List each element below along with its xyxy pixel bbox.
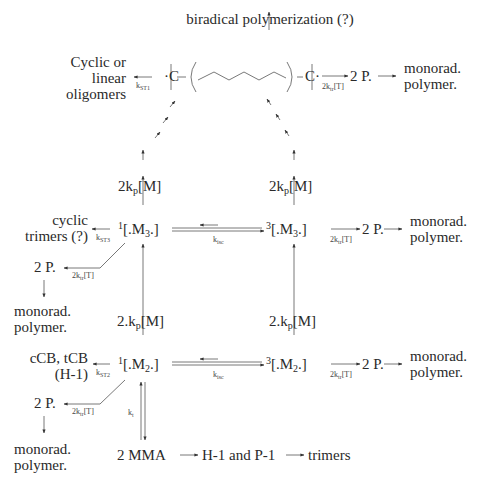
top-monorad-line-2: polymer. bbox=[404, 76, 457, 93]
trimer-left-monorad-line-2: polymer. bbox=[14, 319, 67, 336]
cyclic-trimers-line-2: trimers (?) bbox=[8, 228, 88, 245]
dimer-right-2p-product: 2 P. bbox=[362, 356, 384, 373]
k-st2-label: kST2 bbox=[96, 368, 110, 377]
top-transfer-rate-label: 2ktr[T] bbox=[322, 82, 344, 91]
reaction-scheme: biradical polymerization (?) Cyclic or l… bbox=[0, 0, 495, 487]
trimer-left-transfer-rate: 2ktr[T] bbox=[72, 271, 94, 280]
biradical-polymerization-label: biradical polymerization (?) bbox=[170, 11, 370, 28]
dimer-left-transfer-rate: 2ktr[T] bbox=[72, 407, 94, 416]
trimer-left-monorad-line-1: monorad. bbox=[14, 303, 71, 320]
dimer-left-monorad-line-1: monorad. bbox=[14, 441, 71, 458]
singlet-dimer-biradical: 1[.M2.] bbox=[118, 356, 159, 373]
right-radical-carbon: C· bbox=[305, 68, 320, 85]
monomer-mma: 2 MMA bbox=[117, 447, 166, 464]
k-t-label: kt bbox=[128, 408, 134, 417]
triplet-dimer-biradical: 3[.M2.] bbox=[266, 356, 307, 373]
trimer-right-monorad-line-2: polymer. bbox=[410, 229, 463, 246]
oligomers-line-3: oligomers bbox=[40, 86, 126, 103]
dimer-left-monorad-line-2: polymer. bbox=[14, 457, 67, 474]
k-st3-label: kST3 bbox=[96, 233, 110, 242]
dimer-right-transfer-rate: 2ktr[T] bbox=[330, 370, 352, 379]
cyclic-trimers-line-1: cyclic bbox=[20, 212, 88, 229]
dimer-right-propagation-rate: 2.kp[M] bbox=[269, 313, 316, 330]
k-isc-dimer-label: kisc bbox=[213, 370, 224, 379]
trimer-right-transfer-rate: 2ktr[T] bbox=[330, 235, 352, 244]
trimer-left-propagation-rate: 2kp[M] bbox=[118, 178, 161, 195]
left-radical-carbon: ·C bbox=[164, 68, 179, 85]
dimer-right-monorad-line-2: polymer. bbox=[410, 364, 463, 381]
trimer-right-monorad-line-1: monorad. bbox=[410, 213, 467, 230]
h1-p1-products: H-1 and P-1 bbox=[202, 447, 275, 464]
k-st1-label: kST1 bbox=[136, 81, 150, 90]
cyclobutane-line-2: (H-1) bbox=[20, 366, 88, 383]
k-isc-trimer-label: kisc bbox=[213, 235, 224, 244]
trimer-right-2p-product: 2 P. bbox=[362, 221, 384, 238]
dimer-right-monorad-line-1: monorad. bbox=[410, 348, 467, 365]
trimer-right-propagation-rate: 2kp[M] bbox=[269, 178, 312, 195]
triplet-trimer-biradical: 3[.M3.] bbox=[266, 221, 307, 238]
oligomers-line-1: Cyclic or bbox=[40, 54, 126, 71]
cyclobutane-line-1: cCB, tCB bbox=[20, 350, 88, 367]
top-2p-product: 2 P. bbox=[350, 68, 372, 85]
singlet-trimer-biradical: 1[.M3.] bbox=[118, 221, 159, 238]
dimer-left-2p-product: 2 P. bbox=[34, 395, 56, 412]
oligomers-line-2: linear bbox=[40, 70, 126, 87]
trimers-product: trimers bbox=[308, 447, 351, 464]
top-monorad-line-1: monorad. bbox=[404, 60, 461, 77]
dimer-left-propagation-rate: 2.kp[M] bbox=[117, 313, 164, 330]
trimer-left-2p-product: 2 P. bbox=[34, 259, 56, 276]
